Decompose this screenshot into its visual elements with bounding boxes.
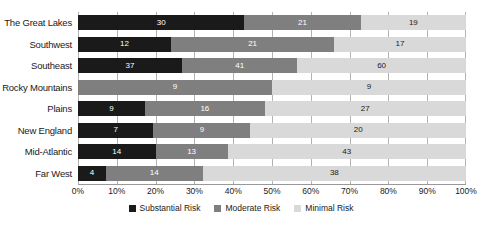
x-axis-line [78,184,466,185]
bar-row: 41438 [78,163,466,185]
bar-segment-substantial: 7 [78,123,153,138]
x-axis-tick: 100% [455,186,477,196]
bar-segment-moderate: 9 [153,123,250,138]
category-label: Plains [0,98,72,120]
legend-label: Substantial Risk [140,203,201,213]
stacked-bar: 141343 [78,144,466,159]
bar-segment-substantial: 30 [78,15,244,30]
segment-value-label: 38 [330,169,339,177]
x-axis-tick: 90% [419,186,436,196]
category-axis-labels: The Great LakesSouthwestSoutheastRocky M… [0,12,72,184]
bar-segment-minimal: 27 [265,101,466,116]
x-axis-tick: 50% [263,186,280,196]
bar-segment-minimal: 60 [297,58,466,73]
category-label: Southeast [0,55,72,77]
bar-segment-substantial: 37 [78,58,182,73]
segment-value-label: 14 [150,169,159,177]
segment-value-label: 7 [113,126,117,134]
bar-row: 99 [78,77,466,99]
segment-value-label: 43 [342,148,351,156]
legend-item[interactable]: Minimal Risk [294,203,353,213]
legend-item[interactable]: Moderate Risk [214,203,280,213]
category-label: Southwest [0,34,72,56]
x-axis-tick: 0% [72,186,84,196]
x-axis-tick: 10% [108,186,125,196]
bar-segment-moderate: 41 [182,58,297,73]
bar-segment-moderate: 16 [145,101,264,116]
segment-value-label: 20 [354,126,363,134]
bar-row: 122117 [78,34,466,56]
legend-swatch-icon [294,205,301,212]
category-label: Mid-Atlantic [0,141,72,163]
bar-row: 374160 [78,55,466,77]
stacked-bar-chart: The Great LakesSouthwestSoutheastRocky M… [0,0,482,229]
segment-value-label: 17 [396,40,405,48]
x-axis-tick: 60% [302,186,319,196]
x-axis-tick: 40% [225,186,242,196]
bar-rows: 3021191221173741609991627792014134341438 [78,12,466,184]
x-axis-ticks: 0%10%20%30%40%50%60%70%80%90%100% [78,186,466,200]
segment-value-label: 37 [126,62,135,70]
segment-value-label: 41 [235,62,244,70]
bar-segment-substantial: 14 [78,144,156,159]
bar-segment-substantial: 12 [78,37,171,52]
segment-value-label: 19 [409,19,418,27]
bar-row: 141343 [78,141,466,163]
stacked-bar: 91627 [78,101,466,116]
segment-value-label: 9 [109,105,113,113]
segment-value-label: 27 [361,105,370,113]
stacked-bar: 374160 [78,58,466,73]
segment-value-label: 60 [377,62,386,70]
x-axis-tick: 70% [341,186,358,196]
bar-row: 91627 [78,98,466,120]
segment-value-label: 9 [200,126,204,134]
stacked-bar: 302119 [78,15,466,30]
segment-value-label: 9 [367,83,371,91]
stacked-bar: 99 [78,80,466,95]
segment-value-label: 21 [298,19,307,27]
x-axis-tick: 30% [186,186,203,196]
bar-segment-minimal: 20 [250,123,466,138]
bar-segment-minimal: 9 [272,80,466,95]
segment-value-label: 4 [90,169,94,177]
category-label: Far West [0,163,72,185]
segment-value-label: 12 [120,40,129,48]
segment-value-label: 16 [200,105,209,113]
plot-area: 3021191221173741609991627792014134341438 [78,12,466,184]
bar-segment-minimal: 43 [228,144,466,159]
category-label: Rocky Mountains [0,77,72,99]
bar-segment-minimal: 17 [334,37,466,52]
bar-segment-minimal: 38 [203,166,466,181]
legend-swatch-icon [129,205,136,212]
segment-value-label: 14 [112,148,121,156]
bar-segment-substantial: 9 [78,101,145,116]
chart-legend: Substantial RiskModerate RiskMinimal Ris… [0,203,482,213]
segment-value-label: 21 [248,40,257,48]
segment-value-label: 30 [157,19,166,27]
bar-segment-moderate: 14 [106,166,203,181]
segment-value-label: 9 [173,83,177,91]
bar-segment-moderate: 13 [156,144,228,159]
bar-segment-minimal: 19 [361,15,466,30]
legend-swatch-icon [214,205,221,212]
bar-segment-moderate: 21 [171,37,334,52]
bar-segment-moderate: 21 [244,15,360,30]
bar-segment-substantial: 4 [78,166,106,181]
bar-row: 7920 [78,120,466,142]
x-axis-tick: 20% [147,186,164,196]
legend-label: Minimal Risk [305,203,353,213]
bar-row: 302119 [78,12,466,34]
legend-label: Moderate Risk [225,203,280,213]
stacked-bar: 41438 [78,166,466,181]
legend-item[interactable]: Substantial Risk [129,203,201,213]
category-label: New England [0,120,72,142]
stacked-bar: 122117 [78,37,466,52]
bar-segment-moderate: 9 [78,80,272,95]
x-axis-tick: 80% [380,186,397,196]
stacked-bar: 7920 [78,123,466,138]
segment-value-label: 13 [187,148,196,156]
category-label: The Great Lakes [0,12,72,34]
